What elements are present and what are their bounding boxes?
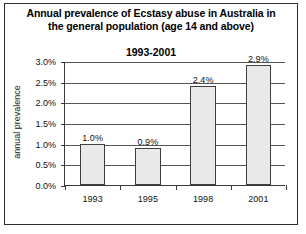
x-axis-tick bbox=[286, 185, 287, 190]
chart-subtitle: 1993-2001 bbox=[18, 46, 284, 58]
y-axis-tick-label: 3.0% bbox=[10, 57, 56, 67]
y-axis-tick-label: 0.0% bbox=[10, 181, 56, 191]
y-axis-tick-label: 1.0% bbox=[10, 140, 56, 150]
bar bbox=[80, 144, 105, 185]
x-axis-tick-label: 1995 bbox=[138, 194, 158, 204]
plot-area: 0.0%0.5%1.0%1.5%2.0%2.5%3.0% 1.0%0.9%2.4… bbox=[64, 62, 285, 186]
x-axis-tick bbox=[65, 185, 66, 190]
y-axis-tick bbox=[61, 165, 65, 166]
y-axis-tick bbox=[61, 103, 65, 104]
x-axis-tick-label: 1998 bbox=[193, 194, 213, 204]
x-axis-tick bbox=[120, 185, 121, 190]
y-axis-tick-label: 0.5% bbox=[10, 160, 56, 170]
x-axis-tick bbox=[231, 185, 232, 190]
bar bbox=[135, 148, 160, 185]
y-axis-tick-label: 1.5% bbox=[10, 119, 56, 129]
chart-container: Annual prevalence of Ecstasy abuse in Au… bbox=[0, 0, 306, 234]
bar bbox=[246, 65, 271, 185]
y-axis-tick bbox=[61, 145, 65, 146]
y-axis-tick bbox=[61, 62, 65, 63]
x-axis-tick-label: 2001 bbox=[248, 194, 268, 204]
chart-title: Annual prevalence of Ecstasy abuse in Au… bbox=[18, 7, 284, 32]
bar-value-label: 0.9% bbox=[138, 137, 159, 147]
y-axis-tick bbox=[61, 124, 65, 125]
bar-value-label: 1.0% bbox=[82, 133, 103, 143]
y-axis-tick bbox=[61, 83, 65, 84]
y-axis-tick-label: 2.0% bbox=[10, 98, 56, 108]
bar-value-label: 2.4% bbox=[193, 75, 214, 85]
bar-value-label: 2.9% bbox=[248, 54, 269, 64]
x-axis-tick-label: 1993 bbox=[83, 194, 103, 204]
x-axis-tick bbox=[176, 185, 177, 190]
y-axis-tick-label: 2.5% bbox=[10, 78, 56, 88]
bar bbox=[190, 86, 215, 185]
